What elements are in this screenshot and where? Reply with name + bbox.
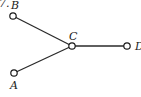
label-a: A bbox=[9, 79, 18, 92]
node-c bbox=[69, 43, 75, 49]
node-d bbox=[124, 43, 130, 49]
node-b bbox=[10, 13, 16, 19]
label-c: C bbox=[69, 30, 78, 43]
graph-diagram: 7. B C D A bbox=[0, 0, 141, 97]
edge-b-c bbox=[13, 16, 72, 46]
label-b: B bbox=[10, 0, 19, 12]
label-d: D bbox=[134, 40, 141, 53]
figure-number: 7. bbox=[0, 0, 10, 10]
edge-a-c bbox=[14, 46, 72, 73]
node-a bbox=[11, 70, 17, 76]
